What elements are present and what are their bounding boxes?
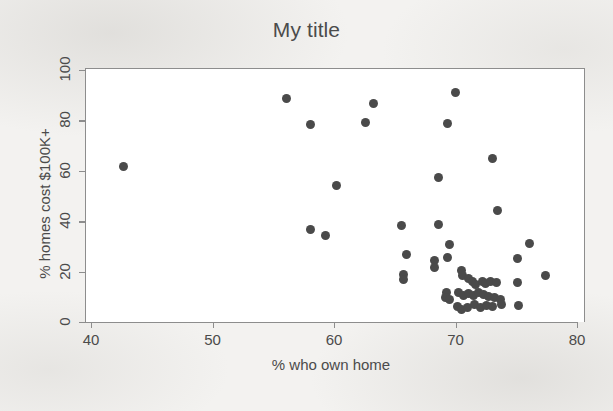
data-points-layer — [86, 69, 584, 322]
data-point — [399, 275, 408, 284]
y-axis-tick-label: 80 — [56, 108, 73, 132]
data-point — [488, 154, 497, 163]
data-point — [445, 295, 454, 304]
y-axis-tick — [79, 120, 85, 121]
data-point — [397, 221, 406, 230]
page-title: My title — [0, 18, 613, 42]
data-point — [492, 278, 501, 287]
x-axis-tick-label: 50 — [191, 331, 235, 348]
data-point — [513, 278, 522, 287]
y-axis-tick-label: 40 — [56, 209, 73, 233]
data-point — [282, 94, 291, 103]
y-axis-title: % homes cost $100K+ — [36, 94, 53, 314]
x-axis-tick-label: 80 — [555, 331, 599, 348]
y-axis-tick — [79, 70, 85, 71]
x-axis-tick-label: 40 — [69, 331, 113, 348]
data-point — [443, 119, 452, 128]
y-axis-tick-label: 0 — [56, 310, 73, 334]
x-axis-title: % who own home — [85, 356, 577, 373]
data-point — [514, 301, 523, 310]
data-point — [445, 240, 454, 249]
data-point — [119, 162, 128, 171]
plot-area — [85, 68, 585, 322]
x-axis-tick-label: 60 — [312, 331, 356, 348]
y-axis-tick — [79, 272, 85, 273]
x-axis-tick — [456, 322, 457, 328]
data-point — [402, 250, 411, 259]
data-point — [525, 239, 534, 248]
data-point — [493, 206, 502, 215]
data-point — [332, 181, 341, 190]
x-axis-tick — [213, 322, 214, 328]
data-point — [361, 118, 370, 127]
data-point — [434, 173, 443, 182]
data-point — [513, 254, 522, 263]
data-point — [443, 253, 452, 262]
y-axis-tick-label: 20 — [56, 259, 73, 283]
x-axis-line — [85, 322, 577, 323]
x-axis-tick — [91, 322, 92, 328]
data-point — [497, 300, 506, 309]
data-point — [430, 263, 439, 272]
data-point — [306, 225, 315, 234]
x-axis-tick-label: 70 — [434, 331, 478, 348]
data-point — [451, 88, 460, 97]
data-point — [541, 271, 550, 280]
y-axis-tick — [79, 171, 85, 172]
data-point — [434, 220, 443, 229]
y-axis-tick — [79, 221, 85, 222]
x-axis-tick — [334, 322, 335, 328]
data-point — [306, 120, 315, 129]
y-axis-tick-label: 100 — [56, 58, 73, 82]
data-point — [321, 231, 330, 240]
scatter-plot-figure: My title 4050607080 020406080100 % homes… — [0, 0, 613, 411]
x-axis-tick — [577, 322, 578, 328]
y-axis-tick — [79, 322, 85, 323]
y-axis-tick-label: 60 — [56, 158, 73, 182]
data-point — [369, 99, 378, 108]
